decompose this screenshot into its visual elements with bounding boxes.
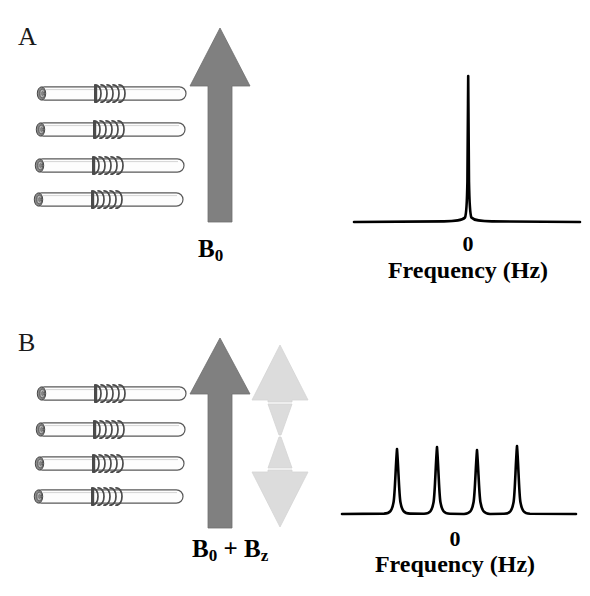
panel-b-xaxis-label: Frequency (Hz) (355, 552, 555, 576)
bz-label-b0-base: B (192, 535, 209, 562)
panel-a: A (0, 0, 590, 300)
panel-b-spectrum (340, 432, 578, 522)
spectrum-b-trace (342, 446, 576, 514)
bz-label-operator: + (217, 535, 244, 562)
panel-a-tubes-group (28, 86, 198, 214)
bz-label-bz-sub: z (261, 546, 269, 565)
tube-1 (37, 385, 186, 403)
panel-a-b0-label: B0 (198, 236, 223, 264)
panel-b-letter: B (18, 330, 35, 356)
panel-a-b0-arrow (188, 26, 252, 224)
panel-b-tubes-group (28, 386, 198, 514)
tube-4 (34, 191, 183, 209)
panel-b-field-label: B0 + Bz (192, 536, 268, 564)
spectrum-a-trace (354, 76, 580, 222)
bz-label-bz-base: B (244, 535, 261, 562)
panel-a-letter: A (18, 24, 37, 50)
panel-b-b0-arrow (188, 336, 252, 530)
panel-b-zero-label: 0 (430, 528, 480, 550)
figure-root: A (0, 0, 590, 596)
panel-b-bz-arrow (249, 344, 311, 528)
bz-label-b0-sub: 0 (209, 546, 218, 565)
panel-a-xaxis-label: Frequency (Hz) (368, 258, 568, 282)
tube-1 (37, 85, 186, 103)
panel-a-zero-label: 0 (443, 233, 493, 255)
b0-label-base: B (198, 235, 215, 262)
panel-a-spectrum (352, 62, 582, 230)
tube-2 (36, 121, 185, 139)
tube-3 (35, 455, 184, 473)
tube-4 (34, 488, 183, 506)
tube-2 (36, 421, 185, 439)
b0-label-sub: 0 (215, 246, 224, 265)
panel-b: B (0, 300, 590, 596)
tube-3 (35, 157, 184, 175)
